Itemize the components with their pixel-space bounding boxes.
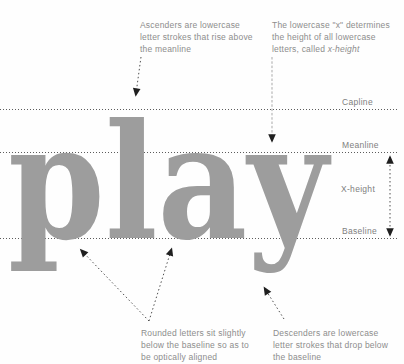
annotation-xheight-line3: letters, called: [272, 44, 328, 54]
annotation-ascenders: Ascenders are lowercase letter strokes t…: [140, 19, 270, 56]
xheight-label: X-height: [341, 184, 375, 194]
meanline-label: Meanline: [342, 140, 379, 150]
baseline-label: Baseline: [342, 226, 377, 236]
annotation-xheight-line2: the height of all lowercase: [272, 32, 376, 42]
capline-label: Capline: [342, 97, 373, 107]
typography-anatomy-diagram: play Capline Meanline X-height Baseline …: [0, 0, 404, 364]
annotation-xheight-line1: The lowercase "x" determines: [272, 20, 390, 30]
specimen-word: play: [8, 88, 331, 276]
descender-arrow: [265, 288, 285, 319]
annotation-rounded-letters: Rounded letters sit slightly below the b…: [141, 327, 271, 364]
annotation-xheight-definition: The lowercase "x" determines the height …: [272, 19, 404, 56]
annotation-descenders: Descenders are lowercase letter strokes …: [273, 327, 404, 364]
annotation-xheight-term-italic: x-height: [328, 44, 360, 54]
